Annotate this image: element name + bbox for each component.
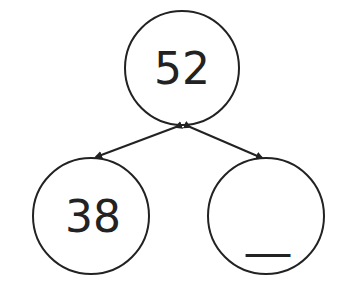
left-part-value: 38: [65, 191, 121, 242]
arrow-right: [190, 127, 262, 158]
number-bond-diagram: 52 38 __: [0, 0, 344, 295]
arrow-left: [96, 127, 176, 157]
whole-value: 52: [154, 43, 210, 94]
left-part-node: 38: [33, 158, 149, 274]
whole-node: 52: [125, 11, 239, 125]
right-part-node[interactable]: __: [208, 158, 324, 274]
blank-answer[interactable]: __: [245, 205, 291, 257]
